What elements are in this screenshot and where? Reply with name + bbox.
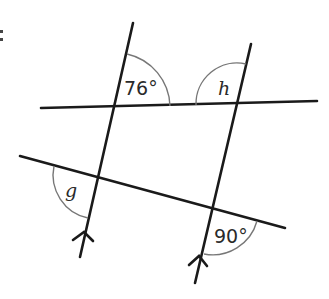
left-parallel-line: [80, 23, 133, 257]
angle-label-76: 76°: [124, 77, 158, 99]
lower-transversal-line: [20, 156, 285, 228]
upper-transversal-line: [41, 101, 317, 108]
angle-label-h: h: [218, 77, 230, 99]
figure-canvas: 76° h g 90°: [0, 0, 329, 299]
angle-label-g: g: [65, 179, 77, 201]
angle-label-90: 90°: [214, 225, 248, 247]
geometry-figure: 76° h g 90°: [0, 0, 329, 299]
